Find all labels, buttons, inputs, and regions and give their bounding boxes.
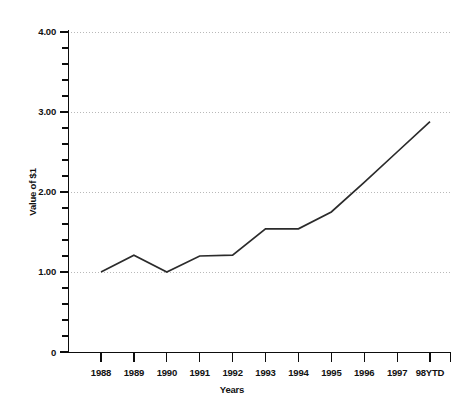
x-tick-label-1990: 1990 (157, 367, 177, 378)
y-axis-title: Value of $1 (27, 167, 38, 215)
x-tick-label-1993: 1993 (255, 367, 275, 378)
y-tick-label-4: 4.00 (38, 26, 56, 37)
x-tick-label-1991: 1991 (190, 367, 211, 378)
x-axis-tick-labels: 1988 1989 1990 1991 1992 1993 1994 1995 … (91, 367, 445, 378)
x-tick-label-1995: 1995 (321, 367, 342, 378)
line-chart: 4.00 3.00 2.00 1.00 0 Value of $1 1988 (0, 0, 468, 410)
x-tick-label-1994: 1994 (288, 367, 309, 378)
x-axis-title: Years (220, 384, 244, 395)
y-tick-label-1: 1.00 (38, 266, 56, 277)
y-tick-label-3: 3.00 (38, 106, 56, 117)
x-tick-label-1988: 1988 (91, 367, 111, 378)
y-tick-label-0: 0 (51, 347, 56, 358)
chart-background (0, 0, 468, 410)
x-tick-label-1992: 1992 (222, 367, 242, 378)
x-tick-label-1997: 1997 (387, 367, 407, 378)
x-tick-label-1996: 1996 (354, 367, 374, 378)
x-tick-label-1989: 1989 (124, 367, 144, 378)
chart-canvas: 4.00 3.00 2.00 1.00 0 Value of $1 1988 (0, 0, 468, 410)
y-tick-label-2: 2.00 (38, 186, 56, 197)
x-tick-label-98ytd: 98YTD (416, 367, 445, 378)
